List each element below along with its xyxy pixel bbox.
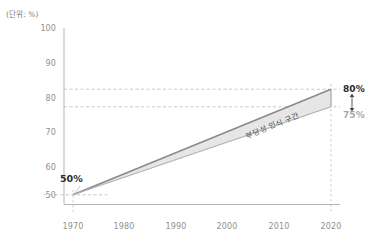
lower-value-annotation: 75% <box>343 110 365 120</box>
x-tick-2000: 2000 <box>212 222 242 231</box>
x-tick-1980: 1980 <box>109 222 139 231</box>
x-tick-1970: 1970 <box>58 222 88 231</box>
chart-canvas <box>0 0 373 248</box>
y-tick-100: 100 <box>30 24 56 33</box>
range-arrow-icon <box>350 93 355 111</box>
y-tick-70: 70 <box>30 128 56 137</box>
x-tick-1990: 1990 <box>161 222 191 231</box>
y-tick-50: 50 <box>30 191 56 200</box>
y-tick-90: 90 <box>30 59 56 68</box>
unit-label: (단위: %) <box>6 8 39 19</box>
x-tick-2010: 2010 <box>264 222 294 231</box>
x-tick-2020: 2020 <box>316 222 346 231</box>
y-tick-60: 60 <box>30 163 56 172</box>
y-tick-80: 80 <box>30 94 56 103</box>
upper-value-annotation: 80% <box>343 84 365 94</box>
start-value-annotation: 50% <box>60 173 83 184</box>
chart-container: (단위: %) 100 90 80 70 60 50 1970 1980 199… <box>0 0 373 248</box>
